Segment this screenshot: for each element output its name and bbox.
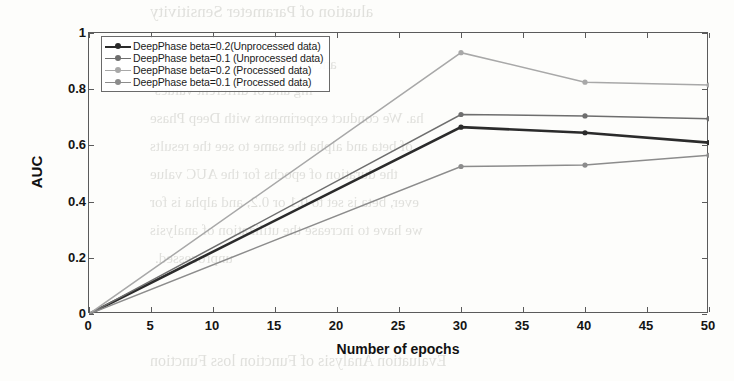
y-tick-label: 0.4 bbox=[68, 193, 86, 208]
y-tick-label: 0.2 bbox=[68, 249, 86, 264]
legend-item-label: DeepPhase beta=0.1 (Processed data) bbox=[133, 76, 311, 88]
legend-item[interactable]: DeepPhase beta=0.1 (Processed data) bbox=[105, 76, 323, 88]
x-tick-label: 50 bbox=[701, 318, 715, 333]
y-tick-label: 0.8 bbox=[68, 81, 86, 96]
x-tick-label: 10 bbox=[205, 318, 219, 333]
x-tick-label: 30 bbox=[453, 318, 467, 333]
legend-item[interactable]: DeepPhase beta=0.2(Unprocessed data) bbox=[105, 40, 323, 52]
y-tick-label: 0.6 bbox=[68, 137, 86, 152]
legend-line-swatch-icon bbox=[105, 77, 131, 88]
chart-legend: DeepPhase beta=0.2(Unprocessed data)Deep… bbox=[101, 36, 330, 92]
x-axis-label: Number of epochs bbox=[337, 341, 460, 357]
y-axis-label: AUC bbox=[28, 156, 45, 189]
x-tick-label: 5 bbox=[146, 318, 153, 333]
legend-item-label: DeepPhase beta=0.2 (Processed data) bbox=[133, 64, 311, 76]
x-tick-label: 15 bbox=[267, 318, 281, 333]
x-tick-label: 35 bbox=[515, 318, 529, 333]
legend-item[interactable]: DeepPhase beta=0.1 (Unprocessed data) bbox=[105, 52, 323, 64]
legend-item-label: DeepPhase beta=0.2(Unprocessed data) bbox=[133, 40, 321, 52]
figure-chart-auc-vs-epochs: aluation of Parameter Sensitivityant los… bbox=[0, 0, 734, 381]
legend-line-swatch-icon bbox=[105, 41, 131, 52]
legend-line-swatch-icon bbox=[105, 65, 131, 76]
legend-item-label: DeepPhase beta=0.1 (Unprocessed data) bbox=[133, 52, 323, 64]
x-tick-label: 20 bbox=[329, 318, 343, 333]
legend-line-swatch-icon bbox=[105, 53, 131, 64]
y-tick-label: 1 bbox=[79, 25, 86, 40]
x-tick-label: 40 bbox=[577, 318, 591, 333]
x-tick-label: 25 bbox=[391, 318, 405, 333]
x-tick-label: 45 bbox=[639, 318, 653, 333]
legend-item[interactable]: DeepPhase beta=0.2 (Processed data) bbox=[105, 64, 323, 76]
x-tick-label: 0 bbox=[84, 318, 91, 333]
